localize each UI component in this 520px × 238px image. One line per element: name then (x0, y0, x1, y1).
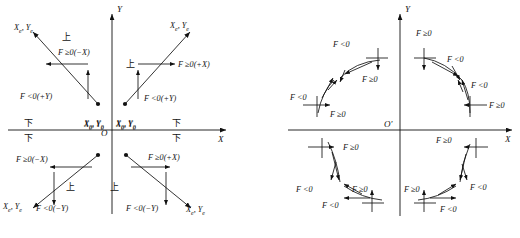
left-ul-x-label: F ≥0(−X) (57, 48, 90, 57)
left-ll-y-label: F <0(−Y) (35, 204, 68, 213)
left-ll-x-label: F ≥0(−X) (15, 155, 48, 164)
right-ul-outer-normal (340, 70, 345, 82)
figure-canvas: Y X O Xe, Ye X0, Y0 F ≥0(−X) F <0(+Y) 上 … (0, 0, 520, 238)
left-quadrant-upper-left: Xe, Ye X0, Y0 F ≥0(−X) F <0(+Y) 上 (13, 23, 104, 130)
right-ll-label-2: F <0 (295, 185, 313, 194)
left-lr-vector (126, 155, 191, 208)
left-ur-x-label: F ≥0(+X) (177, 60, 210, 69)
left-ul-marker: 上 (62, 32, 71, 42)
left-quadrant-lower-right: F ≥0(+X) F <0(−Y) Xe, Ye X0, Y0 上 (110, 120, 205, 216)
left-lr-start-label: X0, Y0 (115, 120, 136, 131)
right-ur-label-2: F <0 (446, 55, 464, 64)
right-ul-label-4: F ≥0 (329, 110, 346, 119)
right-quadrant-upper-right: F ≥0 F <0 F <0 F ≥0 (414, 29, 505, 117)
right-y-axis-label: Y (405, 4, 411, 14)
left-ll-start-label: X0, Y0 (83, 120, 104, 131)
right-ul-label-2: F ≥0 (361, 75, 378, 84)
right-origin-label: O' (384, 119, 393, 129)
right-ll-label-3: F ≥0 (351, 185, 368, 194)
left-axis-marker-left-above: 下 (24, 118, 33, 128)
left-ll-start-dot (96, 153, 100, 157)
left-ul-y-label: F <0(+Y) (19, 92, 52, 101)
left-axis-marker-right-below: 下 (172, 133, 181, 143)
right-lr-outer-normal (462, 164, 467, 180)
right-ur-label-1: F ≥0 (415, 29, 432, 38)
left-lr-end-label: Xe, Ye (185, 205, 205, 216)
left-ur-start-dot (123, 102, 127, 106)
right-ul-label-3: F <0 (289, 93, 307, 102)
left-lr-x-label: F ≥0(+X) (147, 153, 180, 162)
left-ur-y-label: F <0(+Y) (143, 94, 176, 103)
right-lr-label-1: F ≥0 (435, 136, 452, 145)
right-ul-label-1: F <0 (332, 40, 350, 49)
diagram-svg: Y X O Xe, Ye X0, Y0 F ≥0(−X) F <0(+Y) 上 … (0, 0, 520, 238)
right-ur-label-4: F ≥0 (488, 101, 505, 110)
right-quadrant-upper-left: F <0 F ≥0 F <0 F ≥0 (289, 40, 388, 119)
left-ul-end-label: Xe, Ye (13, 23, 33, 34)
left-lr-y-label: F <0(−Y) (125, 204, 158, 213)
left-ul-start-dot (96, 102, 100, 106)
left-y-axis-label: Y (117, 4, 123, 14)
right-ul-inner-tangent (322, 78, 333, 98)
right-quadrant-lower-right: F ≥0 F <0 F ≥0 F <0 (403, 136, 488, 214)
right-quadrant-lower-left: F ≥0 F <0 F ≥0 F <0 (295, 138, 384, 212)
left-lr-start-dot (124, 153, 128, 157)
right-ll-label-1: F ≥0 (342, 143, 359, 152)
right-ll-label-4: F <0 (321, 201, 339, 210)
left-ur-end-label: Xe, Ye (169, 21, 189, 32)
left-x-axis-label: X (217, 134, 224, 144)
left-ll-end-label: Xe, Ye (2, 202, 22, 213)
left-lr-marker: 上 (110, 182, 119, 192)
right-lr-inner-tangent (438, 184, 456, 195)
right-ll-outer-normal (331, 162, 336, 180)
right-diagram: Y X O' F <0 F ≥0 F <0 F ≥0 (288, 4, 512, 216)
left-quadrant-lower-left: F ≥0(−X) F <0(−Y) Xe, Ye X0, Y0 上 (2, 120, 104, 213)
right-ul-outer-tangent (345, 62, 372, 74)
left-diagram: Y X O Xe, Ye X0, Y0 F ≥0(−X) F <0(+Y) 上 … (2, 4, 226, 216)
right-ll-outer-tangent (332, 152, 339, 180)
right-x-axis-label: X (504, 134, 511, 144)
left-axis-marker-right-above: 下 (172, 118, 181, 128)
left-quadrant-upper-right: Xe, Ye X0, Y0 F ≥0(+X) F <0(+Y) 上 (115, 21, 210, 130)
right-lr-arc-outer (460, 144, 470, 182)
right-lr-label-3: F ≥0 (403, 185, 420, 194)
left-ur-marker: 上 (126, 59, 135, 69)
right-lr-label-2: F <0 (469, 183, 487, 192)
right-lr-label-4: F <0 (439, 205, 457, 214)
left-axis-marker-left-below: 下 (24, 133, 33, 143)
right-ul-arc-inner (318, 80, 334, 113)
right-ur-label-3: F <0 (470, 81, 488, 90)
left-ll-marker: 上 (66, 182, 75, 192)
